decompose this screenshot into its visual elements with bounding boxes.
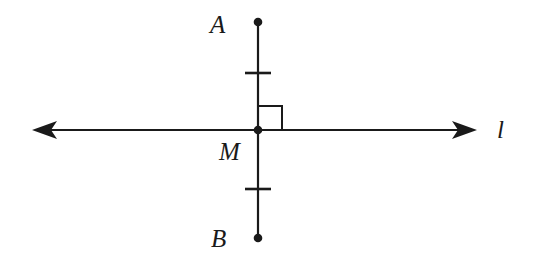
- right-angle-square: [258, 106, 282, 130]
- point-b-dot: [254, 234, 263, 243]
- point-m-label: M: [219, 139, 240, 164]
- point-a-label: A: [210, 12, 225, 37]
- point-a-dot: [254, 18, 263, 27]
- line-l-label: l: [497, 117, 504, 142]
- diagram-svg: [0, 0, 535, 267]
- geometry-figure: A M B l: [0, 0, 535, 267]
- right-angle-marker-icon: [258, 106, 282, 130]
- point-b-label: B: [211, 226, 226, 251]
- point-m-dot: [254, 126, 263, 135]
